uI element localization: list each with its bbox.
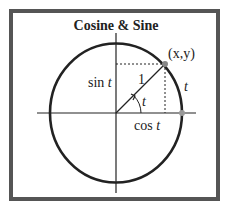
angle-label: t — [142, 94, 147, 109]
unit-circle-diagram: Cosine & Sine (x,y) 1 sin t cos t t t — [0, 0, 233, 209]
radius-label: 1 — [138, 72, 145, 87]
cos-label: cos t — [134, 118, 161, 133]
sin-label: sin t — [88, 75, 113, 90]
point-xy — [162, 61, 168, 67]
arc-label: t — [184, 79, 189, 94]
angle-arc — [134, 96, 141, 113]
point-label: (x,y) — [168, 46, 195, 62]
diagram-title: Cosine & Sine — [74, 18, 159, 33]
point-start — [179, 110, 185, 116]
